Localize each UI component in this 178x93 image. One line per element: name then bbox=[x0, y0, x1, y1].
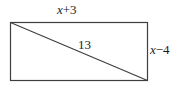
geometry-figure: x+3 x−4 13 bbox=[0, 0, 178, 93]
label-top-side: x+3 bbox=[57, 3, 77, 16]
label-right-side: x−4 bbox=[150, 43, 170, 56]
label-right-operator: −4 bbox=[156, 42, 170, 57]
label-diagonal-length: 13 bbox=[78, 38, 91, 51]
label-top-operator: +3 bbox=[63, 2, 77, 17]
